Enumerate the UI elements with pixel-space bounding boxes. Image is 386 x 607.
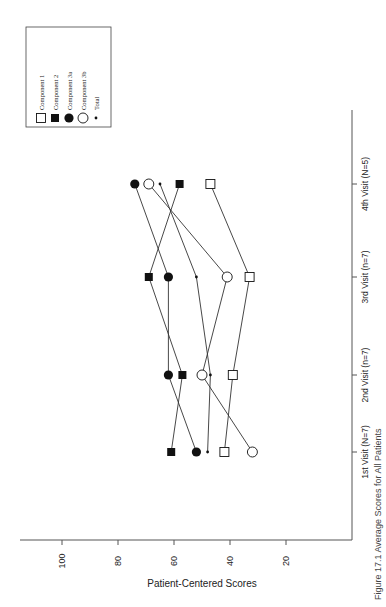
filled-square-marker — [178, 371, 186, 379]
filled-square-marker — [167, 448, 175, 456]
small-dot-marker — [206, 451, 209, 454]
filled-circle-marker — [164, 272, 173, 281]
legend-label: Component 1 — [38, 75, 45, 110]
line-chart: Component 1Component 2Component 3aCompon… — [0, 0, 386, 607]
figure-caption: Figure 17.1 Average Scores for All Patie… — [373, 428, 383, 600]
filled-square-legend-icon — [51, 114, 59, 122]
series-component-3a — [130, 179, 201, 456]
open-square-marker — [245, 273, 254, 282]
open-circle-marker — [197, 370, 207, 380]
series-group — [130, 179, 257, 457]
value-tick-label: 80 — [113, 556, 123, 566]
value-tick-label: 20 — [281, 556, 291, 566]
category-label: 1st Visit (N=7) — [360, 425, 370, 479]
small-dot-marker — [195, 276, 198, 279]
legend-label: Component 3b — [80, 72, 87, 110]
filled-circle-legend-icon — [64, 113, 73, 122]
series-line — [149, 184, 253, 452]
value-tick-label: 100 — [57, 553, 67, 568]
open-square-legend-icon — [37, 114, 46, 123]
open-square-marker — [228, 371, 237, 380]
filled-circle-marker — [192, 447, 201, 456]
legend: Component 1Component 2Component 3aCompon… — [26, 27, 111, 127]
small-dot-legend-icon — [95, 117, 98, 120]
legend-label: Total — [93, 97, 100, 110]
open-square-marker — [220, 448, 229, 457]
open-circle-legend-icon — [78, 113, 88, 123]
small-dot-marker — [159, 183, 162, 186]
open-circle-marker — [247, 447, 257, 457]
filled-circle-marker — [164, 370, 173, 379]
small-dot-marker — [209, 374, 212, 377]
filled-square-marker — [176, 180, 184, 188]
category-label: 4th Visit (N=5) — [360, 157, 370, 211]
category-label: 2nd Visit (n=7) — [360, 347, 370, 402]
open-square-marker — [206, 180, 215, 189]
axes: 100806040201st Visit (N=7)2nd Visit (n=7… — [20, 110, 370, 569]
legend-label: Component 2 — [52, 75, 59, 110]
filled-circle-marker — [130, 179, 139, 188]
value-tick-label: 40 — [225, 556, 235, 566]
open-circle-marker — [144, 179, 154, 189]
series-component-3b — [144, 179, 258, 457]
category-label: 3rd Visit (n=7) — [360, 250, 370, 303]
series-line — [135, 184, 197, 452]
value-tick-label: 60 — [169, 556, 179, 566]
value-axis-title: Patient-Centered Scores — [147, 578, 257, 589]
filled-square-marker — [145, 273, 153, 281]
axis-lines — [20, 110, 352, 540]
series-component-1 — [206, 180, 254, 457]
legend-label: Component 3a — [66, 72, 73, 110]
series-line — [149, 184, 183, 452]
series-line — [160, 184, 210, 452]
open-circle-marker — [222, 272, 232, 282]
